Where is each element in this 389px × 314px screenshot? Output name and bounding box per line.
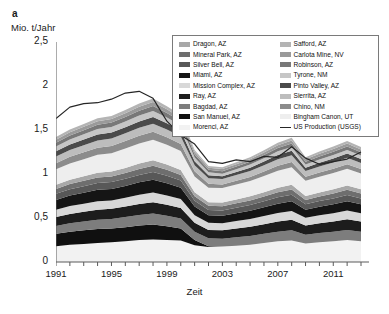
legend-color-swatch bbox=[280, 52, 291, 57]
legend-color-swatch bbox=[280, 94, 291, 99]
x-axis-tick-label: 1995 bbox=[89, 268, 133, 279]
y-axis-tick-label: 2 bbox=[4, 79, 48, 90]
legend-color-swatch bbox=[179, 104, 190, 109]
y-axis-title: Mio. t/Jahr bbox=[11, 22, 55, 33]
legend-label: Carlota Mine, NV bbox=[294, 51, 344, 59]
legend-label: Tyrone, NM bbox=[294, 71, 328, 79]
legend-label: Bagdad, AZ bbox=[193, 103, 227, 111]
legend-item: Pinto Valley, AZ bbox=[276, 81, 377, 91]
legend-color-swatch bbox=[280, 62, 291, 67]
legend-item: Safford, AZ bbox=[276, 39, 377, 49]
legend-item: Mineral Park, AZ bbox=[175, 49, 276, 59]
y-axis-tick-label: 2,5 bbox=[4, 35, 48, 46]
legend-color-swatch bbox=[280, 83, 291, 88]
legend-label: Bingham Canon, UT bbox=[294, 113, 354, 121]
legend-label: Mineral Park, AZ bbox=[193, 51, 242, 59]
x-axis-tick-label: 2007 bbox=[256, 268, 300, 279]
legend-color-swatch bbox=[280, 104, 291, 109]
legend-item: Robinson, AZ bbox=[276, 60, 377, 70]
legend-label: Dragon, AZ bbox=[193, 40, 226, 48]
legend-label: Pinto Valley, AZ bbox=[294, 82, 340, 90]
legend-label: San Manuel, AZ bbox=[193, 113, 240, 121]
chart-legend: Dragon, AZMineral Park, AZSilver Bell, A… bbox=[172, 35, 379, 137]
x-axis-tick-label: 1999 bbox=[145, 268, 189, 279]
legend-color-swatch bbox=[280, 73, 291, 78]
legend-color-swatch bbox=[179, 73, 190, 78]
y-axis-tick-label: 0 bbox=[4, 255, 48, 266]
x-axis-title: Zeit bbox=[0, 286, 389, 297]
legend-label: Robinson, AZ bbox=[294, 61, 334, 69]
legend-color-swatch bbox=[179, 52, 190, 57]
legend-item: Carlota Mine, NV bbox=[276, 49, 377, 59]
legend-item: Miami, AZ bbox=[175, 70, 276, 80]
legend-item: San Manuel, AZ bbox=[175, 112, 276, 122]
legend-column-right: Safford, AZCarlota Mine, NVRobinson, AZT… bbox=[276, 39, 377, 133]
legend-item: Dragon, AZ bbox=[175, 39, 276, 49]
x-axis-tick-label: 2011 bbox=[311, 268, 355, 279]
legend-item: Bingham Canon, UT bbox=[276, 112, 377, 122]
y-axis-tick-label: 0,5 bbox=[4, 211, 48, 222]
legend-label: Silver Bell, AZ bbox=[193, 61, 234, 69]
legend-line-swatch bbox=[280, 127, 291, 128]
legend-item: Morenci, AZ bbox=[175, 122, 276, 132]
x-axis-tick-label: 2003 bbox=[200, 268, 244, 279]
panel-label: a bbox=[12, 8, 18, 19]
legend-color-swatch bbox=[179, 125, 190, 130]
y-axis-tick-label: 1,5 bbox=[4, 123, 48, 134]
legend-item: Ray, AZ bbox=[175, 91, 276, 101]
legend-color-swatch bbox=[280, 114, 291, 119]
legend-color-swatch bbox=[179, 94, 190, 99]
legend-label: Mission Complex, AZ bbox=[193, 82, 255, 90]
legend-item: Silver Bell, AZ bbox=[175, 60, 276, 70]
legend-color-swatch bbox=[280, 42, 291, 47]
legend-column-left: Dragon, AZMineral Park, AZSilver Bell, A… bbox=[175, 39, 276, 133]
legend-item: Bagdad, AZ bbox=[175, 101, 276, 111]
legend-label: Safford, AZ bbox=[294, 40, 327, 48]
legend-item: US Production (USGS) bbox=[276, 122, 377, 132]
legend-label: Ray, AZ bbox=[193, 92, 216, 100]
legend-label: US Production (USGS) bbox=[294, 123, 361, 131]
legend-item: Tyrone, NM bbox=[276, 70, 377, 80]
legend-color-swatch bbox=[179, 114, 190, 119]
x-axis-tick-label: 1991 bbox=[34, 268, 78, 279]
legend-item: Sierrita, AZ bbox=[276, 91, 377, 101]
legend-item: Mission Complex, AZ bbox=[175, 81, 276, 91]
legend-label: Chino, NM bbox=[294, 103, 325, 111]
legend-label: Morenci, AZ bbox=[193, 123, 228, 131]
legend-label: Miami, AZ bbox=[193, 71, 222, 79]
y-axis-tick-label: 1 bbox=[4, 167, 48, 178]
legend-item: Chino, NM bbox=[276, 101, 377, 111]
legend-color-swatch bbox=[179, 83, 190, 88]
legend-color-swatch bbox=[179, 62, 190, 67]
legend-label: Sierrita, AZ bbox=[294, 92, 327, 100]
legend-color-swatch bbox=[179, 42, 190, 47]
